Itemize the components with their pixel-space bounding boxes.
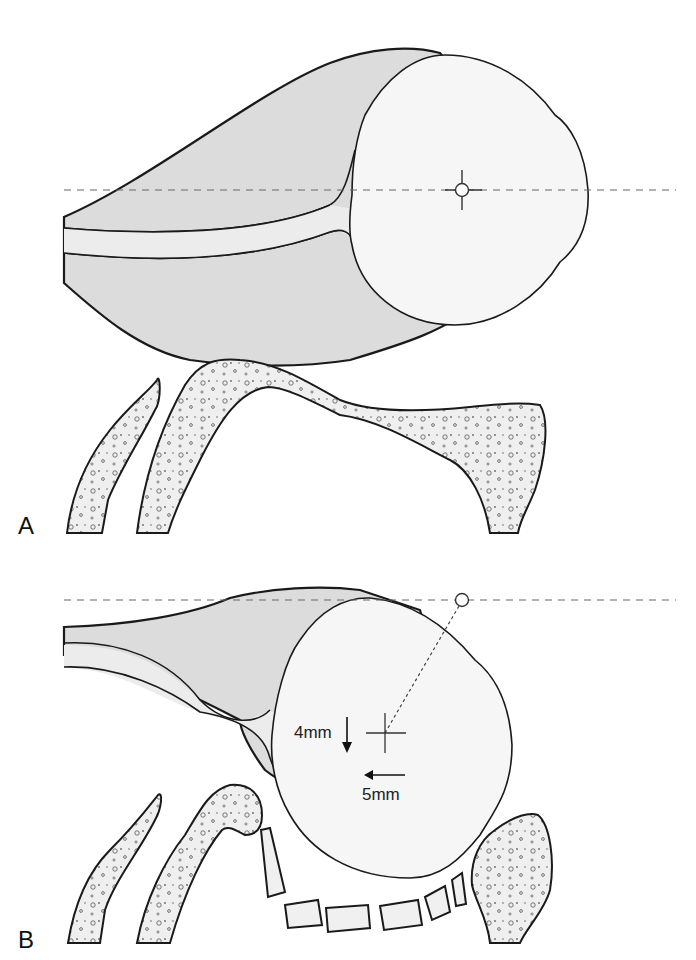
bone-segment-1	[261, 828, 285, 897]
horizontal-shift-label: 5mm	[362, 786, 400, 803]
arch-bone-a	[137, 360, 545, 533]
bone-segment-2	[285, 900, 322, 928]
panel-label-b: B	[18, 928, 34, 952]
bone-segment-4	[380, 900, 422, 930]
panel-a	[64, 49, 676, 533]
bone-segment-6	[452, 873, 466, 906]
anatomical-figure: A B 4mm 5mm	[0, 0, 696, 960]
panel-label-a: A	[18, 514, 34, 538]
original-center-circle-icon	[456, 594, 469, 607]
panel-b	[64, 588, 676, 943]
large-bone-b	[472, 814, 552, 943]
vertical-shift-label: 4mm	[294, 724, 332, 741]
bone-segment-3	[326, 905, 370, 932]
figure-drawing	[0, 0, 696, 960]
bone-segment-5	[425, 886, 450, 920]
